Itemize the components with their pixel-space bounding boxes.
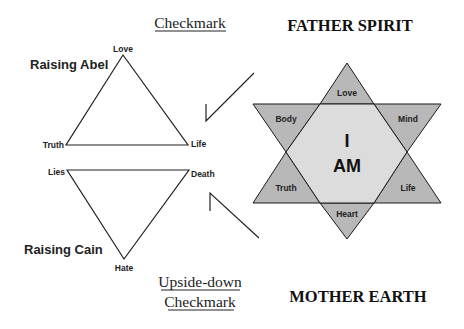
star-truth-label: Truth <box>275 183 296 193</box>
star-love-label: Love <box>337 88 357 98</box>
star-heart-label: Heart <box>336 209 358 219</box>
raising-cain-title: Raising Cain <box>24 242 103 257</box>
checkmark-label: Checkmark <box>154 14 226 31</box>
star-life-label: Life <box>400 183 415 193</box>
upside-down-label-line2: Checkmark <box>164 293 236 310</box>
abel-life-label: Life <box>191 139 206 149</box>
father-spirit-title: FATHER SPIRIT <box>287 16 412 35</box>
star-mind-label: Mind <box>398 114 418 124</box>
star-center-am: AM <box>333 156 361 176</box>
cain-death-label: Death <box>191 169 215 179</box>
abel-love-label: Love <box>113 44 133 54</box>
star-body-label: Body <box>275 114 297 124</box>
upside-down-label-line1: Upside-down <box>158 273 242 290</box>
raising-abel-title: Raising Abel <box>30 57 108 72</box>
mother-earth-title: MOTHER EARTH <box>289 287 427 306</box>
abel-truth-label: Truth <box>43 140 64 150</box>
cain-hate-label: Hate <box>115 263 134 273</box>
cain-lies-label: Lies <box>48 167 65 177</box>
star-of-david: Love Body Mind Truth Life Heart I AM <box>253 63 441 239</box>
diagram-canvas: Checkmark FATHER SPIRIT Raising Abel Lov… <box>0 0 464 329</box>
checkmark-icon <box>206 73 254 121</box>
star-center-i: I <box>344 131 349 151</box>
upside-down-checkmark-icon <box>210 193 259 238</box>
